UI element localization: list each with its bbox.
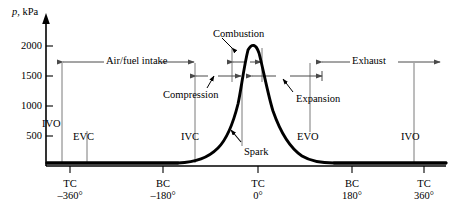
leader-compression <box>207 76 214 88</box>
y-axis <box>42 13 53 166</box>
event-label-spark: Spark <box>244 146 269 157</box>
leader-spark <box>231 130 241 142</box>
phase-label-compression: Compression <box>163 89 218 100</box>
leader-expansion <box>283 79 293 92</box>
y-axis-arrow-icon <box>42 13 50 24</box>
event-label-ivo-right: IVO <box>401 131 420 142</box>
x-tick-top-4: BC <box>317 178 387 189</box>
x-tick-bottom-4: 180° <box>317 190 387 201</box>
y-tick-2000: 2000 <box>0 40 42 51</box>
event-label-ivc: IVC <box>181 131 199 142</box>
x-tick-top-5: TC <box>389 178 459 189</box>
event-label-ivo-left: IVO <box>42 118 61 129</box>
y-tick-1000: 1000 <box>0 100 42 111</box>
y-axis-label: p, kPa <box>12 6 38 17</box>
y-tick-1500: 1500 <box>0 70 42 81</box>
x-tick-bottom-3: 0° <box>223 190 293 201</box>
x-tick-bottom-5: 360° <box>389 190 459 201</box>
event-label-evo: EVO <box>297 131 319 142</box>
leader-combustion <box>222 38 232 48</box>
x-tick-bottom-1: –360° <box>35 190 105 201</box>
x-axis <box>46 166 446 173</box>
phase-label-expansion: Expansion <box>296 93 340 104</box>
phase-label-exhaust: Exhaust <box>352 55 386 66</box>
x-tick-bottom-2: –180° <box>128 190 198 201</box>
x-tick-top-3: TC <box>223 178 293 189</box>
phase-label-intake: Air/fuel intake <box>106 55 168 66</box>
y-tick-500: 500 <box>0 130 42 141</box>
phase-label-combustion: Combustion <box>213 28 264 39</box>
x-tick-top-2: BC <box>128 178 198 189</box>
event-label-evc: EVC <box>73 131 94 142</box>
x-tick-top-1: TC <box>35 178 105 189</box>
pressure-crank-angle-chart: p, kPa 2000 1500 1000 500 TC –360° BC –1… <box>0 0 461 213</box>
